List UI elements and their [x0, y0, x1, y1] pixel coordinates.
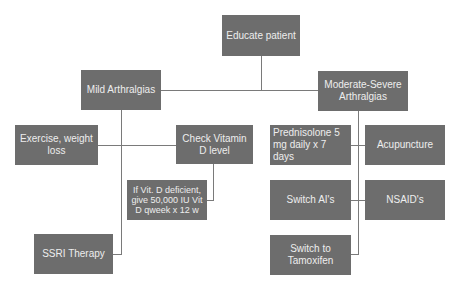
connector-educate-down [261, 56, 262, 91]
node-label: NSAID's [386, 194, 423, 206]
connector-exercise-vitd [98, 145, 176, 146]
connector-vitd-deficient [207, 200, 214, 201]
connector-ssri [113, 254, 122, 255]
connector-tamoxifen [351, 254, 359, 255]
node-vitamin-d-deficient: If Vit. D deficient, give 50,000 IU Vit … [127, 180, 207, 220]
node-check-vitamin-d: Check Vitamin D level [176, 125, 253, 164]
node-label: Acupuncture [377, 139, 433, 151]
node-switch-to-tamoxifen: Switch to Tamoxifen [270, 235, 351, 275]
node-label: Prednisolone 5 mg daily x 7 days [273, 127, 348, 163]
node-label: If Vit. D deficient, give 50,000 IU Vit … [129, 185, 205, 215]
node-label: Switch AI's [286, 194, 334, 206]
connector-vitd-down [213, 164, 214, 201]
connector-mild-moderate [161, 90, 318, 91]
node-prednisolone: Prednisolone 5 mg daily x 7 days [270, 125, 351, 165]
node-label: SSRI Therapy [42, 248, 105, 260]
node-label: Check Vitamin D level [179, 133, 250, 157]
node-mild-arthralgias: Mild Arthralgias [81, 70, 161, 110]
node-switch-ais: Switch AI's [270, 180, 351, 220]
node-label: Switch to Tamoxifen [273, 243, 348, 267]
node-nsaids: NSAID's [365, 180, 445, 220]
connector-moderate-down [358, 111, 359, 255]
connector-mild-down [121, 110, 122, 255]
connector-prednisolone-acupuncture [351, 145, 365, 146]
node-moderate-severe-arthralgias: Moderate-Severe Arthralgias [318, 71, 408, 111]
node-exercise-weight-loss: Exercise, weight loss [15, 125, 98, 165]
node-label: Moderate-Severe Arthralgias [321, 79, 405, 103]
node-label: Exercise, weight loss [18, 133, 95, 157]
node-acupuncture: Acupuncture [365, 125, 445, 165]
node-ssri-therapy: SSRI Therapy [34, 234, 113, 274]
connector-switchai-nsaids [351, 200, 365, 201]
node-label: Educate patient [226, 30, 296, 42]
node-educate-patient: Educate patient [222, 15, 300, 56]
node-label: Mild Arthralgias [87, 84, 155, 96]
